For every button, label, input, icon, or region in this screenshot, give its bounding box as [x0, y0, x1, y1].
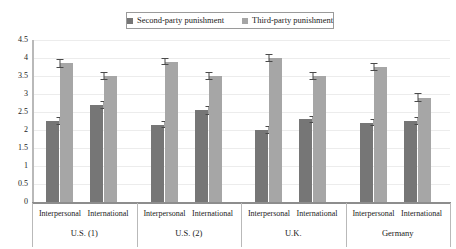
y-axis-tick-label: 2.5: [2, 108, 28, 116]
error-bar: [313, 72, 314, 81]
bar-pair: [360, 40, 388, 202]
y-axis-tick-label: 0.5: [2, 180, 28, 188]
error-bar: [164, 58, 165, 65]
bar-third-party: [104, 76, 117, 202]
bar-group: [137, 40, 242, 202]
legend-item-second-party: Second-party punishment: [127, 16, 224, 25]
bar-second-party: [151, 125, 164, 202]
y-axis-tick-label: 3.5: [2, 72, 28, 80]
bar-chart: Second-party punishment Third-party puni…: [0, 0, 456, 249]
x-axis-sub-label: International: [287, 209, 347, 218]
error-bar: [60, 59, 61, 68]
chart-legend: Second-party punishment Third-party puni…: [126, 12, 334, 29]
y-axis-tick-label: 1.5: [2, 144, 28, 152]
bar-second-party: [255, 130, 268, 202]
bar-third-party: [269, 58, 282, 202]
error-bar: [269, 54, 270, 61]
bar-group: [346, 40, 451, 202]
bar-pair: [404, 40, 432, 202]
error-bar: [104, 72, 105, 81]
error-bar: [417, 93, 418, 102]
x-axis-sub-label: International: [183, 209, 243, 218]
y-axis-tick-label: 3: [2, 90, 28, 98]
x-axis-group-label: U.K.: [241, 228, 346, 238]
error-bar: [208, 72, 209, 81]
bar-second-party: [360, 123, 373, 202]
bar-second-party: [46, 121, 59, 202]
x-axis-group-label: U.S. (2): [137, 228, 242, 238]
legend-item-third-party: Third-party punishment: [242, 16, 333, 25]
bar-group: [32, 40, 137, 202]
y-axis-tick-label: 1: [2, 162, 28, 170]
x-axis-group-label: Germany: [346, 228, 451, 238]
bar-pair: [299, 40, 327, 202]
x-axis-categories: InterpersonalInternationalU.S. (1)Interp…: [32, 203, 451, 249]
x-axis-sub-label: International: [392, 209, 452, 218]
bar-third-party: [165, 62, 178, 202]
bar-third-party: [418, 98, 431, 202]
y-axis-tick-label: 4.5: [2, 36, 28, 44]
bar-second-party: [195, 110, 208, 202]
category-separator: [450, 203, 451, 247]
bar-third-party: [209, 76, 222, 202]
y-axis-tick-label: 4: [2, 54, 28, 62]
y-axis-tick-label: 0: [2, 198, 28, 206]
x-axis-sub-label: International: [78, 209, 138, 218]
legend-label-second-party: Second-party punishment: [137, 16, 224, 25]
bar-third-party: [313, 76, 326, 202]
error-bar: [373, 63, 374, 70]
bar-pair: [195, 40, 223, 202]
legend-swatch-third-party: [242, 18, 248, 24]
legend-swatch-second-party: [127, 18, 133, 24]
bar-second-party: [90, 105, 103, 202]
bar-third-party: [60, 63, 73, 202]
bar-pair: [151, 40, 179, 202]
bar-pair: [255, 40, 283, 202]
x-axis-group-label: U.S. (1): [32, 228, 137, 238]
legend-label-third-party: Third-party punishment: [252, 16, 333, 25]
bar-pair: [46, 40, 74, 202]
y-axis-tick-label: 2: [2, 126, 28, 134]
bar-group: [241, 40, 346, 202]
bar-second-party: [404, 121, 417, 202]
bar-series-area: [32, 40, 450, 202]
bar-pair: [90, 40, 118, 202]
bar-second-party: [299, 119, 312, 202]
bar-third-party: [374, 67, 387, 202]
